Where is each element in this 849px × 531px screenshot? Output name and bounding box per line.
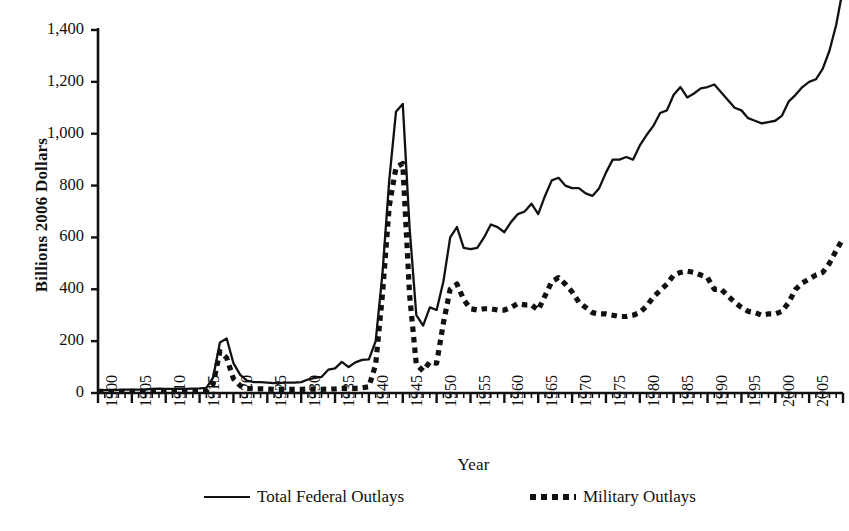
legend-label-military: Military Outlays [583,487,696,507]
solid-line-swatch-icon [204,496,250,498]
dotted-line-swatch-icon [530,494,576,500]
series-line-military-outlays [98,164,843,392]
legend-entry-military: Military Outlays [530,487,696,507]
series-lines [98,0,843,391]
series-line-total-federal-outlays [98,0,843,390]
figure-caption [0,522,849,531]
chart-figure: Billions 2006 Dollars Year 0200400600800… [0,0,849,531]
legend-entry-total: Total Federal Outlays [204,487,404,507]
legend-label-total: Total Federal Outlays [257,487,404,507]
axes-lines [91,28,843,403]
plot-area [0,0,849,531]
chart-legend: Total Federal Outlays Military Outlays [0,487,849,519]
